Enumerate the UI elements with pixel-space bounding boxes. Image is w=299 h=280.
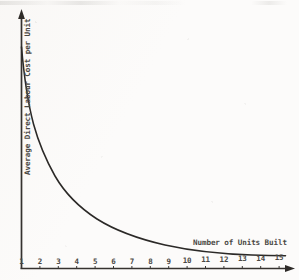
x-tick-label-5: 5: [93, 258, 97, 266]
x-tick-label-14: 14: [256, 255, 265, 263]
x-axis-arrowhead: [285, 265, 295, 272]
x-axis-title: Number of Units Built: [193, 239, 287, 247]
x-tick-label-4: 4: [75, 258, 79, 266]
x-tick-label-8: 8: [148, 258, 152, 266]
x-tick-label-12: 12: [220, 256, 229, 264]
x-tick-label-3: 3: [56, 258, 60, 266]
x-tick-label-1: 1: [19, 258, 23, 266]
x-tick-label-6: 6: [111, 258, 115, 266]
learning-curve-figure: 1 2 3 4 5 6 7 8 9 10 11 12 13 14 15 Numb…: [0, 0, 299, 280]
y-axis-title: Average Direct Labour Cost per Unit: [24, 17, 32, 177]
x-tick-label-2: 2: [38, 258, 42, 266]
x-tick-label-10: 10: [183, 257, 192, 265]
x-tick-label-9: 9: [167, 258, 171, 266]
x-tick-label-15: 15: [275, 254, 284, 262]
learning-curve-line: [22, 47, 286, 256]
x-tick-label-13: 13: [238, 255, 247, 263]
x-tick-label-7: 7: [130, 258, 134, 266]
x-tick-label-11: 11: [201, 256, 210, 264]
